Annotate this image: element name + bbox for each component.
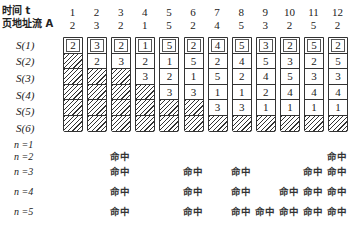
empty-stack-cell — [136, 100, 154, 116]
stack-top-value: 1 — [138, 39, 152, 52]
time-value: 2 — [87, 6, 106, 18]
stack-cell: 2 — [185, 38, 203, 54]
empty-stack-cell — [64, 85, 82, 101]
address-stream-label: 页地址流 A — [2, 18, 53, 30]
stack-cell: 2 — [209, 54, 227, 70]
hit-marker: 命中 — [181, 186, 205, 198]
stack-column: 32 — [87, 37, 107, 132]
empty-stack-cell — [185, 116, 203, 132]
stack-cell: 2 — [136, 54, 154, 70]
stack-top-value: 5 — [235, 39, 249, 52]
stack-cell: 2 — [64, 38, 82, 54]
empty-stack-cell — [209, 116, 227, 132]
stack-cell: 5 — [257, 54, 275, 70]
address-value: 4 — [208, 19, 227, 31]
time-value: 6 — [184, 6, 203, 18]
stack-cell: 3 — [160, 85, 178, 101]
empty-stack-cell — [88, 85, 106, 101]
stack-cell: 4 — [257, 69, 275, 85]
stack-row-label: S(2) — [16, 55, 34, 67]
hit-marker: 命中 — [253, 206, 277, 218]
stack-top-value: 5 — [307, 39, 321, 52]
stack-cell: 4 — [329, 85, 347, 101]
address-value: 3 — [256, 19, 275, 31]
stack-cell: 3 — [136, 69, 154, 85]
hit-marker: 命中 — [181, 206, 205, 218]
hit-marker: 命中 — [229, 166, 253, 178]
cache-size-label: n =1 — [14, 139, 33, 151]
address-value: 2 — [328, 19, 347, 31]
empty-stack-cell — [64, 116, 82, 132]
empty-stack-cell — [112, 85, 130, 101]
empty-stack-cell — [257, 116, 275, 132]
cache-size-label: n =4 — [14, 186, 33, 198]
stack-cell: 1 — [257, 100, 275, 116]
empty-stack-cell — [160, 116, 178, 132]
stack-cell: 3 — [281, 54, 299, 70]
stack-cell: 1 — [136, 38, 154, 54]
stack-cell: 3 — [112, 54, 130, 70]
cache-size-label: n =2 — [14, 151, 33, 163]
hit-marker: 命中 — [325, 166, 349, 178]
stack-top-value: 3 — [90, 39, 104, 52]
empty-stack-cell — [64, 100, 82, 116]
stack-row-label: S(3) — [16, 72, 34, 84]
stack-cell: 2 — [281, 38, 299, 54]
time-value: 1 — [63, 6, 82, 18]
stack-cell: 4 — [305, 85, 323, 101]
empty-stack-cell — [185, 100, 203, 116]
stack-cell: 5 — [185, 54, 203, 70]
stack-cell: 3 — [257, 38, 275, 54]
cache-size-label: n =3 — [14, 166, 33, 178]
stack-cell: 3 — [185, 85, 203, 101]
empty-stack-cell — [136, 116, 154, 132]
empty-stack-cell — [281, 116, 299, 132]
stack-column: 23541 — [280, 37, 300, 132]
stack-cell: 1 — [305, 100, 323, 116]
empty-stack-cell — [88, 100, 106, 116]
stack-cell: 1 — [185, 69, 203, 85]
stack-cell: 4 — [233, 54, 251, 70]
hit-marker: 命中 — [108, 151, 132, 163]
address-value: 2 — [280, 19, 299, 31]
stack-column: 23 — [111, 37, 131, 132]
empty-stack-cell — [112, 100, 130, 116]
stack-top-value: 5 — [162, 39, 176, 52]
hit-marker: 命中 — [181, 166, 205, 178]
stack-cell: 5 — [160, 38, 178, 54]
stack-cell: 1 — [329, 100, 347, 116]
stack-cell: 4 — [281, 85, 299, 101]
hit-marker: 命中 — [325, 186, 349, 198]
hit-marker: 命中 — [301, 206, 325, 218]
empty-stack-cell — [160, 100, 178, 116]
empty-stack-cell — [233, 116, 251, 132]
time-value: 5 — [159, 6, 178, 18]
address-value: 5 — [159, 19, 178, 31]
hit-marker: 命中 — [325, 206, 349, 218]
hit-marker: 命中 — [108, 206, 132, 218]
stack-cell: 2 — [88, 54, 106, 70]
empty-stack-cell — [64, 54, 82, 70]
hit-marker: 命中 — [277, 206, 301, 218]
time-value: 12 — [328, 6, 347, 18]
stack-column: 35421 — [256, 37, 276, 132]
time-value: 3 — [111, 6, 130, 18]
stack-column: 123 — [135, 37, 155, 132]
stack-top-value: 2 — [66, 39, 80, 52]
empty-stack-cell — [64, 69, 82, 85]
stack-top-value: 2 — [187, 39, 201, 52]
time-value: 11 — [304, 6, 323, 18]
stack-cell: 1 — [160, 54, 178, 70]
time-value: 9 — [256, 6, 275, 18]
stack-column: 54213 — [232, 37, 252, 132]
address-value: 3 — [87, 19, 106, 31]
time-value: 4 — [135, 6, 154, 18]
stack-cell: 1 — [233, 85, 251, 101]
stack-cell: 1 — [209, 85, 227, 101]
address-value: 1 — [135, 19, 154, 31]
empty-stack-cell — [88, 116, 106, 132]
stack-cell: 2 — [329, 38, 347, 54]
hit-marker: 命中 — [108, 166, 132, 178]
time-value: 8 — [232, 6, 251, 18]
hit-marker: 命中 — [277, 186, 301, 198]
